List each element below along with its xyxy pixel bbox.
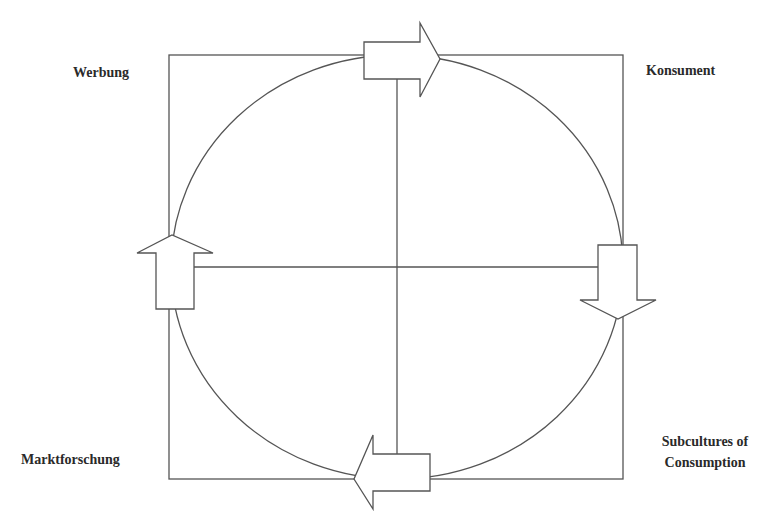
label-subcultures-of-consumption: Subcultures of Consumption (645, 431, 765, 473)
arrow-left-icon (354, 435, 430, 509)
arrow-down-icon (580, 245, 656, 319)
label-marktforschung: Marktforschung (21, 449, 120, 470)
label-werbung: Werbung (73, 62, 129, 83)
label-subcultures-line2: Consumption (645, 452, 765, 473)
arrow-up-icon (137, 235, 213, 309)
arrow-right-icon (364, 23, 440, 97)
label-konsument: Konsument (646, 60, 715, 81)
label-subcultures-line1: Subcultures of (645, 431, 765, 452)
